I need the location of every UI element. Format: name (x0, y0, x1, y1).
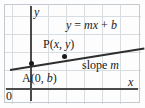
slope-label: slope m (82, 59, 119, 71)
origin-label: 0 (6, 90, 12, 102)
equation-x-var: x (93, 18, 98, 32)
y-axis (30, 6, 32, 101)
equation-equals: = (74, 18, 81, 32)
point-a-label: A(0, b) (22, 72, 57, 84)
point-a-close-paren: ) (53, 71, 57, 85)
equation-plus: + (101, 18, 108, 32)
equation-label: y = mx + b (66, 19, 117, 31)
point-p-close-paren: ) (70, 37, 74, 51)
point-a-marker (29, 61, 34, 66)
equation-slope-var: m (84, 18, 93, 32)
equation-lhs: y (66, 18, 71, 32)
line-equation-diagram: y = mx + b P(x, y) slope m A(0, b) 0 x y (0, 0, 145, 108)
slope-word: slope (82, 58, 107, 72)
x-axis-label-text: x (128, 75, 133, 89)
x-axis-label: x (128, 76, 133, 88)
x-axis (6, 88, 138, 90)
point-p-name: P (43, 37, 50, 51)
point-p-marker (62, 54, 67, 59)
slope-var: m (110, 58, 119, 72)
equation-intercept-var: b (111, 18, 117, 32)
point-p-label: P(x, y) (43, 38, 74, 50)
y-axis-label: y (34, 6, 39, 18)
y-axis-label-text: y (34, 5, 39, 19)
point-a-name: A (22, 71, 31, 85)
